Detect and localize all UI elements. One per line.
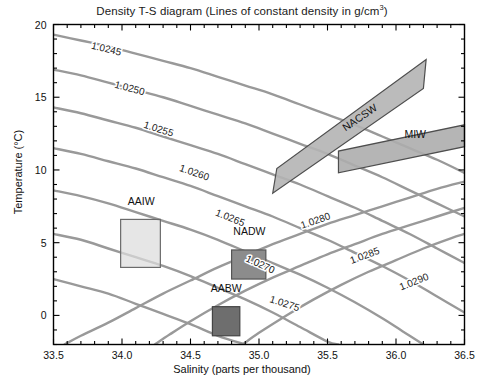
x-tick-label: 36.5 [454,349,475,361]
water-mass-box [121,219,161,267]
y-tick-label: 20 [35,19,47,31]
density-contour [243,234,465,345]
contour-label: 1.0265 [214,207,247,229]
contour-label: 1.0250 [114,79,147,98]
x-tick-label: 34.0 [112,349,133,361]
x-tick-label: 35.0 [249,349,270,361]
water-mass-aaiw: AAIW [121,195,161,268]
x-tick-label: 35.5 [317,349,338,361]
x-axis-title: Salinity (parts per thousand) [0,363,484,375]
x-tick-label: 33.5 [43,349,64,361]
y-tick-label: 0 [41,309,47,321]
water-mass-nacsw: NACSW [273,59,426,193]
contour-label: 1.0275 [268,293,301,313]
water-mass-label: AABW [211,282,242,294]
water-mass-label: MIW [404,128,426,140]
plot-canvas: AAIWNADWAABWNACSWMIW 33.534.034.535.035.… [0,0,484,386]
water-mass-label: NADW [233,225,265,237]
y-tick-label: 15 [35,91,47,103]
contour-label: 1.0260 [178,162,211,183]
y-tick-label: 10 [35,164,47,176]
y-axis-title: Temperature (°C) [12,102,24,242]
y-tick-label: 5 [41,237,47,249]
ts-diagram-figure: Density T-S diagram (Lines of constant d… [0,0,484,386]
x-tick-label: 36.0 [386,349,407,361]
contour-label: 1.0245 [90,40,123,58]
water-mass-aabw: AABW [211,282,242,336]
water-mass-box [212,307,239,336]
water-mass-label: AAIW [128,195,155,207]
x-tick-label: 34.5 [180,349,201,361]
density-contour [54,107,465,263]
